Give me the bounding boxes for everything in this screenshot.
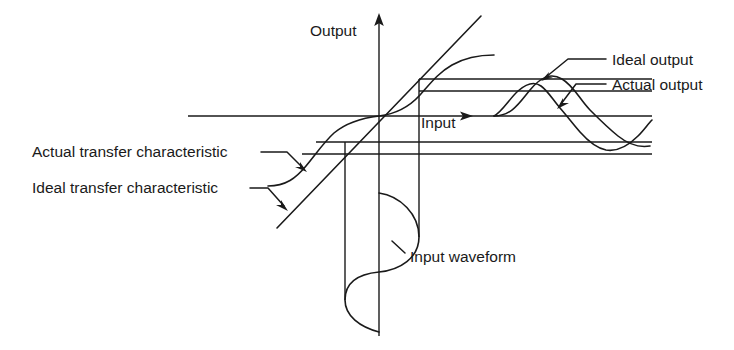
input-waveform-leader-line bbox=[392, 241, 405, 253]
input-waveform-label: Input waveform bbox=[410, 248, 516, 265]
ideal-transfer-characteristic-leader-line bbox=[250, 188, 284, 206]
input-axis-label: Input bbox=[421, 114, 456, 131]
actual-transfer-characteristic-label: Actual transfer characteristic bbox=[32, 143, 228, 160]
upper-projection-lines bbox=[419, 79, 652, 237]
actual-output-waveform-curve bbox=[494, 84, 652, 151]
actual-output-leader-line bbox=[561, 84, 606, 104]
figure-canvas: Output Input Ideal output Actual output … bbox=[0, 0, 734, 350]
output-axis-label: Output bbox=[310, 22, 357, 39]
ideal-output-label: Ideal output bbox=[612, 51, 694, 68]
actual-transfer-characteristic-leader-line bbox=[261, 152, 303, 168]
axes-group bbox=[188, 13, 652, 336]
ideal-transfer-characteristic-leader-arrowhead bbox=[276, 200, 288, 211]
actual-output-label: Actual output bbox=[612, 76, 703, 93]
actual-output-leader-arrowhead bbox=[557, 98, 569, 109]
callout-leaders bbox=[250, 59, 606, 253]
lower-projection-lines bbox=[302, 142, 652, 300]
transfer-characteristic-diagram: Output Input Ideal output Actual output … bbox=[0, 0, 734, 350]
input-waveform-curve bbox=[345, 193, 419, 332]
ideal-transfer-characteristic-label: Ideal transfer characteristic bbox=[32, 179, 218, 196]
ideal-output-leader-line bbox=[546, 59, 606, 77]
transfer-characteristic-group bbox=[268, 16, 494, 228]
input-waveform-group bbox=[345, 193, 419, 332]
